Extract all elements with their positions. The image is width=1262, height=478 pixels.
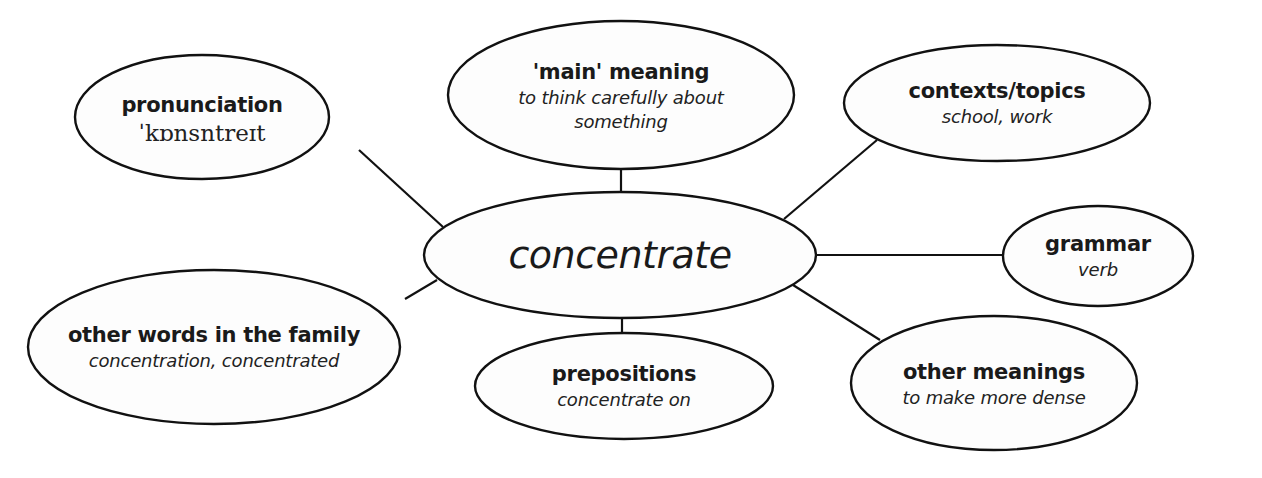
node-prepositions: prepositions concentrate on <box>475 336 773 436</box>
node-detail-line2: something <box>574 110 668 134</box>
node-detail: concentrate on <box>557 388 691 412</box>
node-title: 'main' meaning <box>533 59 710 86</box>
node-title: other words in the family <box>68 322 360 349</box>
node-detail: school, work <box>942 105 1052 129</box>
node-pronunciation: pronunciation ˈkɒnsntreɪt <box>75 60 329 178</box>
node-title: contexts/topics <box>908 78 1085 105</box>
node-detail-line1: to think carefully about <box>518 86 723 110</box>
node-detail: to make more dense <box>902 386 1085 410</box>
node-other-words: other words in the family concentration,… <box>28 272 400 422</box>
center-word: concentrate <box>508 233 731 277</box>
node-grammar: grammar verb <box>1003 208 1193 304</box>
node-title: grammar <box>1045 231 1151 258</box>
node-main-meaning: 'main' meaning to think carefully about … <box>448 24 794 168</box>
node-detail: concentration, concentrated <box>89 349 339 373</box>
node-detail: verb <box>1078 258 1118 282</box>
node-detail: ˈkɒnsntreɪt <box>139 119 266 147</box>
node-title: other meanings <box>903 359 1085 386</box>
node-center: concentrate <box>424 192 816 318</box>
node-title: pronunciation <box>121 92 282 119</box>
node-other-meanings: other meanings to make more dense <box>851 320 1137 448</box>
node-title: prepositions <box>552 361 696 388</box>
node-contexts: contexts/topics school, work <box>844 48 1150 158</box>
